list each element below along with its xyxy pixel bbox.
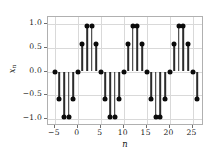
stem-line	[82, 44, 84, 72]
y-axis-tick	[44, 47, 47, 48]
data-point-marker	[94, 41, 99, 46]
stem-line	[173, 44, 175, 72]
data-point-marker	[112, 114, 117, 119]
stem-line	[114, 72, 116, 117]
stem-line	[183, 26, 185, 71]
data-point-marker	[167, 69, 172, 74]
stem-line	[155, 72, 157, 117]
data-point-marker	[163, 97, 168, 102]
data-point-marker	[158, 114, 163, 119]
stem-line	[187, 44, 189, 72]
stem-line	[141, 44, 143, 72]
stem-line	[95, 44, 97, 72]
data-point-marker	[181, 24, 186, 29]
stem-line	[68, 72, 70, 117]
stem-line	[118, 72, 120, 100]
x-axis-label: n	[47, 139, 203, 149]
data-point-marker	[149, 97, 154, 102]
data-point-marker	[117, 97, 122, 102]
y-axis-tick	[44, 118, 47, 119]
plot-axes-frame	[47, 16, 203, 125]
data-point-marker	[57, 97, 62, 102]
stem-series	[48, 17, 202, 124]
stem-line	[137, 26, 139, 71]
y-axis-tick-label: 1.0	[0, 18, 42, 27]
y-axis-tick-label: −0.5	[0, 89, 42, 98]
stem-line	[86, 26, 88, 71]
data-point-marker	[126, 41, 131, 46]
data-point-marker	[89, 24, 94, 29]
y-axis-tick	[44, 71, 47, 72]
y-axis-label-subscript: n	[10, 65, 17, 69]
data-point-marker	[66, 114, 71, 119]
stem-line	[109, 72, 111, 117]
y-axis-label: xn	[7, 49, 17, 89]
data-point-marker	[140, 41, 145, 46]
stem-line	[132, 26, 134, 71]
data-point-marker	[190, 69, 195, 74]
data-point-marker	[75, 69, 80, 74]
data-point-marker	[195, 97, 200, 102]
data-point-marker	[98, 69, 103, 74]
stem-line	[105, 72, 107, 100]
y-axis-tick	[44, 94, 47, 95]
data-point-marker	[121, 69, 126, 74]
stem-plot-figure: −50510152025−1.0−0.50.00.51.0 n xn	[0, 0, 212, 161]
stem-line	[150, 72, 152, 100]
data-point-marker	[80, 41, 85, 46]
data-point-marker	[172, 41, 177, 46]
data-point-marker	[52, 69, 57, 74]
stem-line	[59, 72, 61, 100]
data-point-marker	[103, 97, 108, 102]
data-point-marker	[135, 24, 140, 29]
stem-line	[164, 72, 166, 100]
y-axis-tick	[44, 23, 47, 24]
stem-line	[127, 44, 129, 72]
data-point-marker	[71, 97, 76, 102]
y-axis-tick-label: −1.0	[0, 113, 42, 122]
stem-line	[196, 72, 198, 100]
stem-line	[178, 26, 180, 71]
stem-line	[72, 72, 74, 100]
stem-line	[63, 72, 65, 117]
data-point-marker	[185, 41, 190, 46]
data-point-marker	[144, 69, 149, 74]
y-axis-label-main: x	[7, 69, 17, 74]
stem-line	[91, 26, 93, 71]
x-axis-tick-label: 25	[177, 128, 207, 137]
stem-line	[160, 72, 162, 117]
